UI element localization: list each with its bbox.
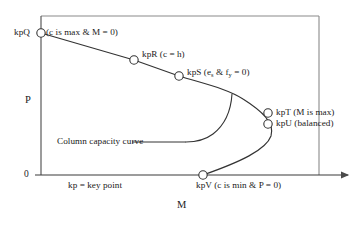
keypoint-marker-kpS xyxy=(175,72,183,80)
kps-subscript-y: y xyxy=(229,71,232,78)
keypoint-marker-kpV xyxy=(199,171,207,179)
keypoint-label-kpT: kpT (M is max) xyxy=(276,108,334,117)
kps-prefix: kpS (e xyxy=(187,67,211,77)
keypoint-label-kpV: kpV (c is min & P = 0) xyxy=(196,181,281,190)
y-axis-label: P xyxy=(25,95,31,106)
x-axis-label: M xyxy=(177,200,186,211)
keypoint-marker-kpQ xyxy=(37,29,45,37)
column-capacity-interaction-diagram: P M 0 kpQ (c is max & M = 0) kpR (c = h)… xyxy=(0,0,362,227)
inner-capacity-branch xyxy=(186,94,232,142)
kps-suffix: = 0) xyxy=(232,67,250,77)
curve-annotation-label: Column capacity curve xyxy=(57,137,143,146)
keypoint-marker-kpT xyxy=(264,109,272,117)
origin-label: 0 xyxy=(24,170,29,180)
keypoint-marker-kpR xyxy=(130,56,138,64)
keypoint-label-kpS: kpS (es & fy = 0) xyxy=(187,68,250,77)
keypoint-label-kpQ-prefix: kpQ xyxy=(14,28,30,37)
keypoint-label-kpU: kpU (balanced) xyxy=(276,119,334,128)
keypoint-label-kpQ-description: (c is max & M = 0) xyxy=(46,28,118,37)
kps-mid: & f xyxy=(214,67,229,77)
keypoint-marker-kpU xyxy=(264,120,272,128)
kps-subscript-s: s xyxy=(211,71,214,78)
keypoint-label-kpR: kpR (c = h) xyxy=(142,50,185,59)
key-point-legend-note: kp = key point xyxy=(68,181,122,190)
